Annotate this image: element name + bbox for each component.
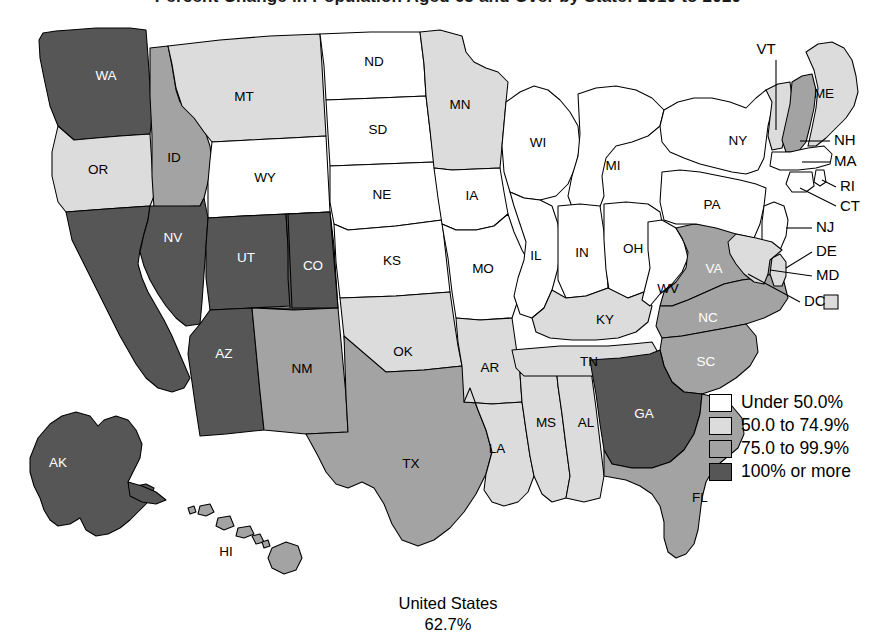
state-label-ME: ME	[814, 86, 834, 101]
state-label-FL: FL	[692, 490, 708, 505]
state-label-NE: NE	[373, 187, 392, 202]
state-label-WI: WI	[530, 135, 547, 150]
state-label-AZ: AZ	[215, 346, 232, 361]
legend-swatch-50-to-74	[709, 417, 732, 435]
callout-line-CT	[800, 188, 836, 206]
legend-swatch-75-to-99	[709, 440, 732, 458]
state-label-ID: ID	[167, 150, 181, 165]
state-label-MS: MS	[536, 415, 556, 430]
state-label-LA: LA	[489, 441, 506, 456]
state-label-OR: OR	[88, 162, 109, 177]
callout-label-CT: CT	[840, 197, 860, 214]
state-label-KS: KS	[383, 253, 401, 268]
callout-label-DE: DE	[816, 242, 837, 259]
state-label-MN: MN	[450, 97, 471, 112]
callout-line-DE	[786, 252, 812, 268]
state-label-UT: UT	[237, 250, 255, 265]
state-CT[interactable]	[786, 172, 814, 192]
legend-item-2[interactable]: 75.0 to 99.9%	[709, 438, 851, 460]
legend-label-0: Under 50.0%	[741, 394, 843, 412]
legend-label-3: 100% or more	[741, 463, 851, 481]
state-label-TX: TX	[402, 456, 419, 471]
state-label-ND: ND	[364, 54, 384, 69]
callout-label-VT: VT	[756, 40, 775, 57]
state-label-NV: NV	[164, 230, 183, 245]
state-label-AK: AK	[49, 455, 67, 470]
state-NY[interactable]	[660, 90, 774, 174]
state-label-AR: AR	[481, 360, 500, 375]
state-MI[interactable]	[568, 86, 664, 218]
legend-item-3[interactable]: 100% or more	[709, 461, 851, 483]
callout-label-DC: DC	[804, 292, 826, 309]
state-HI-6[interactable]	[262, 540, 270, 548]
state-label-IL: IL	[530, 248, 542, 263]
state-RI[interactable]	[814, 170, 826, 186]
state-HI-4[interactable]	[236, 526, 254, 538]
state-label-AL: AL	[578, 415, 595, 430]
state-label-MO: MO	[472, 261, 494, 276]
state-label-CA: CA	[58, 268, 77, 283]
state-label-OH: OH	[623, 241, 643, 256]
state-label-NM: NM	[292, 361, 313, 376]
state-label-MT: MT	[234, 89, 254, 104]
state-AZ[interactable]	[188, 308, 264, 436]
state-label-WY: WY	[254, 170, 276, 185]
state-WA[interactable]	[39, 28, 152, 140]
callout-label-NH: NH	[834, 131, 856, 148]
legend-label-1: 50.0 to 74.9%	[741, 417, 849, 435]
callout-label-MA: MA	[834, 152, 857, 169]
state-label-TN: TN	[580, 354, 598, 369]
legend-label-2: 75.0 to 99.9%	[741, 440, 849, 458]
state-label-GA: GA	[634, 406, 654, 421]
map-legend: Under 50.0% 50.0 to 74.9% 75.0 to 99.9% …	[709, 392, 851, 484]
state-label-NY: NY	[729, 133, 748, 148]
state-label-SC: SC	[697, 354, 716, 369]
state-label-KY: KY	[596, 312, 614, 327]
state-label-PA: PA	[703, 197, 720, 212]
state-MA[interactable]	[770, 146, 832, 170]
legend-swatch-100-or-more	[709, 463, 732, 481]
state-label-WA: WA	[95, 68, 116, 83]
state-label-OK: OK	[393, 344, 413, 359]
state-HI-1[interactable]	[188, 506, 196, 514]
state-label-SD: SD	[369, 122, 388, 137]
state-label-WV: WV	[657, 281, 679, 296]
state-KY[interactable]	[532, 288, 652, 340]
legend-item-0[interactable]: Under 50.0%	[709, 392, 851, 414]
footer-value: 62.7%	[0, 614, 896, 635]
map-footer: United States 62.7%	[0, 593, 896, 635]
choropleth-map-figure: Percent Change in Population Aged 65 and…	[0, 0, 896, 643]
state-AK[interactable]	[30, 412, 154, 536]
state-label-VA: VA	[705, 261, 722, 276]
state-HI-2[interactable]	[198, 504, 214, 516]
state-HI-big[interactable]	[268, 542, 302, 574]
callout-label-MD: MD	[816, 266, 839, 283]
state-HI-3[interactable]	[216, 516, 234, 530]
callout-label-NJ: NJ	[816, 218, 834, 235]
state-label-HI: HI	[219, 544, 233, 559]
state-label-IN: IN	[575, 245, 589, 260]
legend-item-1[interactable]: 50.0 to 74.9%	[709, 415, 851, 437]
footer-area-label: United States	[0, 593, 896, 614]
map-canvas: WA OR ID MT WY ND SD NE KS MN IA MO WI I…	[0, 6, 896, 576]
callout-label-RI: RI	[840, 177, 855, 194]
state-DC-swatch[interactable]	[824, 295, 838, 309]
state-label-NC: NC	[698, 310, 718, 325]
state-label-IA: IA	[466, 188, 479, 203]
state-label-MI: MI	[606, 158, 621, 173]
legend-swatch-under-50	[709, 394, 732, 412]
state-label-CO: CO	[303, 258, 323, 273]
